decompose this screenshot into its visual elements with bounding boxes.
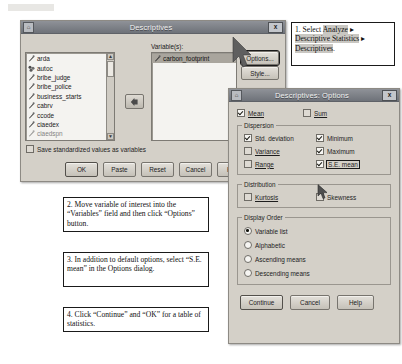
display-order-group: Display Order Variable list Alphabetic A… (237, 217, 391, 285)
checkbox-indicator (244, 193, 252, 201)
checkbox-indicator (244, 160, 252, 168)
checkbox-indicator (303, 109, 311, 117)
options-button[interactable]: Options... (241, 51, 279, 65)
descriptives-titlebar[interactable]: ⌂ Descriptives x (21, 21, 285, 34)
paste-button[interactable]: Paste (103, 162, 136, 177)
minimum-checkbox[interactable]: Minimum (316, 134, 353, 142)
source-list-rows: arda autoc bribe_judge bribe_police busi… (26, 53, 114, 139)
list-item[interactable]: ccode (26, 110, 114, 119)
annotation-text: ▸ (348, 25, 354, 34)
list-item[interactable]: autoc (26, 63, 114, 72)
selected-variables-list[interactable]: carbon_footprint (151, 52, 237, 141)
checkbox-indicator (244, 147, 252, 155)
list-item[interactable]: ciaedex (26, 120, 114, 129)
display-order-group-label: Display Order (242, 214, 285, 221)
std-deviation-label: Std. deviation (255, 135, 294, 142)
scroll-down-icon[interactable]: ▼ (107, 133, 114, 140)
background-artifact-top-left (8, 4, 54, 11)
options-button-row: Continue Cancel Help (237, 295, 391, 310)
kurtosis-label: Kurtosis (255, 194, 278, 201)
scroll-up-icon[interactable]: ▲ (107, 53, 114, 60)
scale-variable-icon (28, 83, 35, 90)
sum-checkbox[interactable]: Sum (303, 109, 327, 117)
display-order-variable-list-radio[interactable]: Variable list (244, 227, 384, 235)
checkbox-indicator (237, 109, 245, 117)
annotation-step-2: 2. Move variable of interest into the “V… (63, 197, 209, 232)
radio-indicator (244, 255, 252, 263)
list-item[interactable]: carbon_footprint (152, 54, 236, 63)
system-menu-icon[interactable]: ⌂ (231, 90, 242, 101)
sum-label: Sum (314, 110, 327, 117)
checkbox-indicator (316, 147, 324, 155)
descriptives-title: Descriptives (34, 23, 268, 32)
se-mean-checkbox[interactable]: S.E. mean (316, 160, 359, 168)
display-order-descending-radio[interactable]: Descending means (244, 269, 384, 277)
options-body: Mean Sum Dispersion Std. deviation Minim… (229, 102, 399, 356)
scale-variable-icon (154, 55, 161, 62)
list-item-label: cabrv (37, 102, 53, 109)
source-list-scrollbar[interactable]: ▲ ▼ (106, 53, 114, 140)
list-item[interactable]: ciaedspn (26, 129, 114, 138)
variance-label: Variance (255, 148, 280, 155)
skewness-checkbox[interactable]: Skewness (316, 193, 356, 201)
style-button[interactable]: Style... (241, 66, 279, 80)
source-variable-list[interactable]: arda autoc bribe_judge bribe_police busi… (25, 52, 115, 141)
display-order-alphabetic-radio[interactable]: Alphabetic (244, 241, 384, 249)
mean-checkbox[interactable]: Mean (237, 109, 303, 117)
kurtosis-checkbox[interactable]: Kurtosis (244, 193, 316, 201)
save-standardized-checkbox[interactable]: Save standardized values as variables (26, 145, 146, 153)
display-order-alphabetic-label: Alphabetic (255, 242, 285, 249)
move-variable-button[interactable] (125, 94, 144, 109)
list-item-label: ccode (37, 112, 54, 119)
dispersion-group-label: Dispersion (242, 122, 276, 129)
display-order-descending-label: Descending means (255, 270, 310, 277)
list-item-label: autoc (37, 65, 53, 72)
scale-variable-icon (28, 93, 35, 100)
display-order-ascending-radio[interactable]: Ascending means (244, 255, 384, 263)
list-item-label: ciaedex (37, 121, 59, 128)
annotation-text: ▸ (359, 34, 365, 43)
ok-button[interactable]: OK (65, 162, 98, 177)
scale-variable-icon (28, 112, 35, 119)
close-icon[interactable]: x (268, 22, 283, 33)
annotation-text: 1. Select (295, 25, 323, 34)
variance-checkbox[interactable]: Variance (244, 147, 316, 155)
std-deviation-checkbox[interactable]: Std. deviation (244, 134, 316, 142)
scrollbar-thumb[interactable] (107, 61, 114, 77)
annotation-step-3: 3. In addition to default options, selec… (63, 252, 209, 287)
minimum-label: Minimum (327, 135, 353, 142)
cancel-button[interactable]: Cancel (290, 295, 330, 310)
range-label: Range (255, 161, 274, 168)
close-icon[interactable]: x (382, 90, 397, 101)
checkbox-indicator (316, 134, 324, 142)
dispersion-row-2: Variance Maximum (244, 147, 384, 155)
reset-button[interactable]: Reset (141, 162, 174, 177)
cancel-button[interactable]: Cancel (179, 162, 212, 177)
skewness-label: Skewness (327, 194, 356, 201)
help-button[interactable]: Help (337, 295, 374, 310)
options-titlebar[interactable]: ⌂ Descriptives: Options x (229, 89, 399, 102)
se-mean-label: S.E. mean (327, 161, 359, 168)
list-item[interactable]: bribe_judge (26, 73, 114, 82)
checkbox-indicator (316, 160, 324, 168)
annotation-step-4: 4. Click “Continue” and “OK” for a table… (63, 307, 209, 332)
list-item-label: bribe_judge (37, 74, 70, 81)
left-arrow-icon (130, 98, 139, 106)
maximum-checkbox[interactable]: Maximum (316, 147, 355, 155)
radio-indicator (244, 269, 252, 277)
list-item-label: business_starts (37, 93, 81, 100)
annotation-highlight: Descriptives (295, 44, 333, 53)
list-item[interactable]: arda (26, 54, 114, 63)
list-item-label: arda (37, 55, 50, 62)
continue-button[interactable]: Continue (240, 295, 283, 310)
range-checkbox[interactable]: Range (244, 160, 316, 168)
system-menu-icon[interactable]: ⌂ (23, 22, 34, 33)
descriptives-options-dialog: ⌂ Descriptives: Options x Mean Sum Dispe… (228, 88, 400, 344)
radio-indicator (244, 241, 252, 249)
list-item[interactable]: bribe_police (26, 82, 114, 91)
list-item[interactable]: cabrv (26, 101, 114, 110)
annotation-text: . (333, 44, 335, 53)
list-item[interactable]: business_starts (26, 92, 114, 101)
annotation-highlight: Descriptive Statistics (295, 34, 359, 43)
list-item-label: bribe_police (37, 83, 71, 90)
